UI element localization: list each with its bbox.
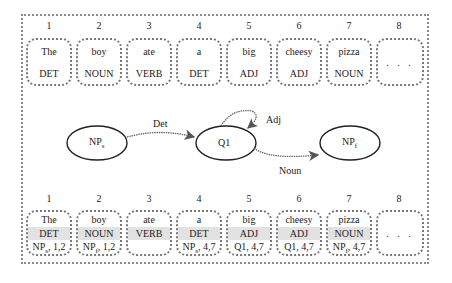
token-cell-ellipsis: . . . bbox=[376, 210, 424, 256]
token-word: big bbox=[228, 214, 270, 225]
token-annotation: NPf, 4,7 bbox=[328, 241, 370, 255]
token-tag: DET bbox=[28, 227, 70, 240]
token-annotation: NPf, 1,2 bbox=[78, 241, 120, 255]
token-tag: DET bbox=[178, 227, 220, 240]
token-word: cheesy bbox=[278, 214, 320, 225]
transition-det-arrow bbox=[127, 133, 194, 138]
token-tag: VERB bbox=[128, 227, 170, 240]
state-label-Q1: Q1 bbox=[218, 137, 230, 148]
token-index: 6 bbox=[276, 193, 322, 204]
token-tag: NOUN bbox=[78, 227, 120, 240]
state-label-NPs: NPs bbox=[89, 136, 105, 150]
transition-label-adj: Adj bbox=[266, 114, 281, 125]
token-tag: ADJ bbox=[228, 227, 270, 240]
token-annotation: Q1, 4,7 bbox=[228, 241, 270, 255]
token-word: The bbox=[28, 214, 70, 225]
token-word: a bbox=[178, 214, 220, 225]
token-annotation: Q1, 4,7 bbox=[278, 241, 320, 255]
token-word: ate bbox=[128, 214, 170, 225]
token-index: 7 bbox=[326, 193, 372, 204]
token-annotation: NPs, 4,7 bbox=[178, 241, 220, 255]
token-cell: big ADJ Q1, 4,7 bbox=[226, 210, 272, 256]
token-cell: boy NOUN NPf, 1,2 bbox=[76, 210, 122, 256]
token-index: 8 bbox=[376, 193, 422, 204]
token-cell: cheesy ADJ Q1, 4,7 bbox=[276, 210, 322, 256]
token-index: 1 bbox=[26, 193, 72, 204]
token-tag: NOUN bbox=[328, 227, 370, 240]
state-label-NPf: NPf bbox=[342, 136, 357, 150]
token-cell: pizza NOUN NPf, 4,7 bbox=[326, 210, 372, 256]
token-word: pizza bbox=[328, 214, 370, 225]
token-index: 3 bbox=[126, 193, 172, 204]
transition-label-det: Det bbox=[153, 118, 167, 129]
ellipsis: . . . bbox=[378, 228, 422, 239]
transition-label-noun: Noun bbox=[279, 165, 301, 176]
token-cell: The DET NPs, 1,2 bbox=[26, 210, 72, 256]
transition-noun-arrow bbox=[254, 148, 318, 156]
token-index: 4 bbox=[176, 193, 222, 204]
token-index: 2 bbox=[76, 193, 122, 204]
token-cell: ate VERB bbox=[126, 210, 172, 256]
token-annotation: NPs, 1,2 bbox=[28, 241, 70, 255]
token-cell: a DET NPs, 4,7 bbox=[176, 210, 222, 256]
token-tag: ADJ bbox=[278, 227, 320, 240]
token-index: 5 bbox=[226, 193, 272, 204]
token-word: boy bbox=[78, 214, 120, 225]
